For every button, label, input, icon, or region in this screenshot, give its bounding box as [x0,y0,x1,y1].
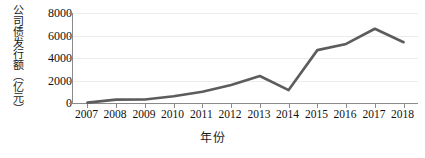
x-tick-label: 2011 [190,108,213,120]
y-tick-label: 0 [28,97,72,109]
x-axis-title: 年份 [0,128,425,146]
y-tick-label: 8000 [28,7,72,19]
y-tick-label: 6000 [28,30,72,42]
x-tick-label: 2012 [219,108,242,120]
y-tick-label: 2000 [28,75,72,87]
x-tick-label: 2018 [391,108,414,120]
x-tick-label: 2013 [247,108,270,120]
x-tick-label: 2008 [104,108,127,120]
chart-container: 公司债发行额（亿元） 8000 6000 4000 2000 0 [0,0,425,158]
y-tick-label: 4000 [28,52,72,64]
x-tick-label: 2010 [161,108,184,120]
x-tick-label: 2007 [75,108,98,120]
line-series [73,13,418,103]
x-tick-label: 2014 [276,108,299,120]
x-tick-label: 2017 [362,108,385,120]
x-tick-label: 2009 [132,108,155,120]
plot-area [72,13,418,104]
y-tick-mark [69,103,73,104]
x-tick-label: 2016 [334,108,357,120]
x-tick-label: 2015 [305,108,328,120]
